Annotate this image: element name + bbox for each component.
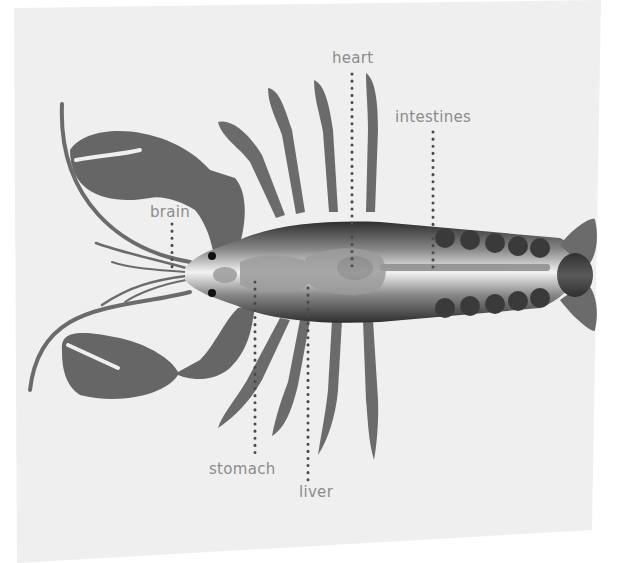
lobster-diagram [0, 0, 626, 563]
intestine-organ [380, 264, 550, 271]
heart-organ [337, 256, 373, 280]
label-intestines: intestines [395, 110, 471, 125]
eye-lower [208, 289, 216, 297]
eye-upper [208, 252, 216, 260]
label-stomach: stomach [209, 462, 276, 477]
label-liver: liver [299, 485, 333, 500]
label-brain: brain [150, 205, 190, 220]
stomach-organ [240, 256, 314, 293]
brain-organ [213, 267, 237, 283]
label-heart: heart [332, 51, 373, 66]
